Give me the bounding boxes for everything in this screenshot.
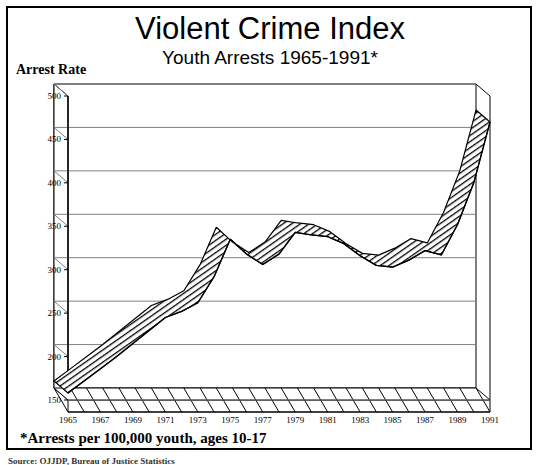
y-tick-label: 300 bbox=[48, 265, 62, 275]
x-tick-label: 1989 bbox=[449, 415, 468, 425]
x-tick-label: 1969 bbox=[124, 415, 143, 425]
y-tick-label: 400 bbox=[48, 178, 62, 188]
x-tick-label: 1975 bbox=[221, 415, 240, 425]
violent-crime-index-chart: 1502002503003504004505001965196719691971… bbox=[0, 0, 540, 465]
x-tick-label: 1985 bbox=[384, 415, 403, 425]
x-tick-label: 1983 bbox=[351, 415, 370, 425]
x-tick-label: 1971 bbox=[156, 415, 174, 425]
chart-page: Violent Crime Index Youth Arrests 1965-1… bbox=[0, 0, 540, 465]
x-tick-label: 1981 bbox=[319, 415, 337, 425]
footnote-text: *Arrests per 100,000 youth, ages 10-17 bbox=[20, 430, 267, 447]
y-tick-label: 200 bbox=[48, 352, 62, 362]
x-tick-label: 1973 bbox=[189, 415, 208, 425]
x-tick-label: 1965 bbox=[59, 415, 78, 425]
y-tick-label: 250 bbox=[48, 308, 62, 318]
y-tick-label: 500 bbox=[48, 91, 62, 101]
x-tick-label: 1991 bbox=[481, 415, 499, 425]
x-tick-label: 1967 bbox=[91, 415, 110, 425]
source-text: Source: OJJDP, Bureau of Justice Statist… bbox=[8, 456, 175, 465]
x-tick-label: 1987 bbox=[416, 415, 435, 425]
x-tick-label: 1977 bbox=[254, 415, 273, 425]
y-tick-label: 450 bbox=[48, 134, 62, 144]
y-tick-label: 350 bbox=[48, 221, 62, 231]
x-tick-label: 1979 bbox=[286, 415, 305, 425]
